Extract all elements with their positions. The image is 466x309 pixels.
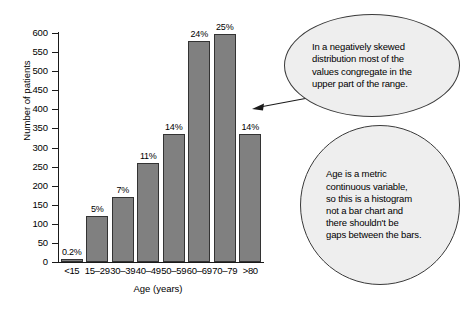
bar-percentage-label: 7% [103, 186, 143, 195]
y-axis-title-text: Number of patients [21, 60, 32, 140]
annotation-text-negative-skew: In a negatively skewed distribution most… [312, 41, 438, 90]
y-axis-tick [52, 224, 58, 225]
histogram-bar [61, 259, 83, 262]
bar-percentage-label: 5% [77, 205, 117, 214]
y-axis-tick-label: 200 [8, 181, 48, 191]
y-axis-tick [52, 33, 58, 34]
histogram-bar [214, 34, 236, 262]
y-axis-tick [52, 90, 58, 91]
y-axis-tick [52, 167, 58, 168]
y-axis-tick [52, 71, 58, 72]
histogram-bar [239, 134, 261, 262]
bar-percentage-label: 0.2% [52, 248, 92, 257]
x-axis-tick-label: >80 [230, 266, 270, 276]
bar-percentage-label: 14% [230, 123, 270, 132]
y-axis-tick-label: 100 [8, 219, 48, 229]
plot-area [59, 33, 263, 262]
y-axis-tick [52, 128, 58, 129]
y-axis-title: Number of patients [21, 41, 32, 161]
histogram-figure: 050100150200250300350400450500550600 Num… [0, 0, 466, 309]
y-axis-tick-label: 600 [8, 28, 48, 38]
annotation-bubble-histogram: Age is a metric continuous variable, so … [300, 125, 460, 285]
y-axis-tick [52, 186, 58, 187]
y-axis-tick-label: 0 [8, 257, 48, 267]
x-axis-title-text: Age (years) [133, 283, 182, 294]
annotation-bubble-negative-skew: In a negatively skewed distribution most… [284, 14, 460, 117]
annotation-arrow [250, 96, 310, 120]
bar-percentage-label: 11% [128, 152, 168, 161]
annotation-text-histogram: Age is a metric continuous variable, so … [326, 168, 438, 241]
bar-percentage-label: 25% [205, 23, 245, 32]
bar-percentage-label: 14% [154, 123, 194, 132]
y-axis-tick [52, 148, 58, 149]
histogram-bar [137, 163, 159, 262]
x-axis-line [52, 262, 264, 263]
histogram-bar [188, 41, 210, 262]
y-axis-tick [52, 52, 58, 53]
y-axis-tick-label: 250 [8, 162, 48, 172]
y-axis-tick [52, 109, 58, 110]
y-axis-tick [52, 243, 58, 244]
y-axis-tick-label: 50 [8, 238, 48, 248]
y-axis-tick [52, 262, 58, 263]
x-axis-title: Age (years) [52, 283, 264, 294]
y-axis-tick-label: 150 [8, 200, 48, 210]
y-axis-tick [52, 205, 58, 206]
